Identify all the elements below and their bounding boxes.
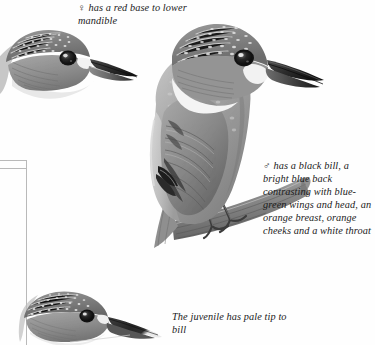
female-eye-glint: [70, 60, 72, 62]
juvenile-kingfisher-head: [18, 288, 178, 345]
caption-juvenile: The juvenile has pale tip to bill: [172, 311, 292, 337]
plate-border-horizontal: [0, 168, 27, 169]
male-kingfisher-perched: [120, 8, 340, 278]
eye-glint: [246, 61, 249, 63]
eye-highlight: [238, 53, 243, 57]
caption-female: ♀ has a red base to lower mandible: [78, 2, 218, 28]
juvenile-eye: [81, 311, 93, 321]
female-eye: [61, 52, 75, 64]
female-eye-highlight: [63, 54, 68, 58]
juvenile-eye-highlight: [83, 313, 87, 316]
illustration-plate: ♀ has a red base to lower mandible ♂ has…: [0, 0, 375, 345]
eye: [236, 51, 252, 64]
caption-male: ♂ has a black bill, a bright blue back c…: [263, 160, 375, 237]
plate-border-top: [0, 160, 27, 161]
